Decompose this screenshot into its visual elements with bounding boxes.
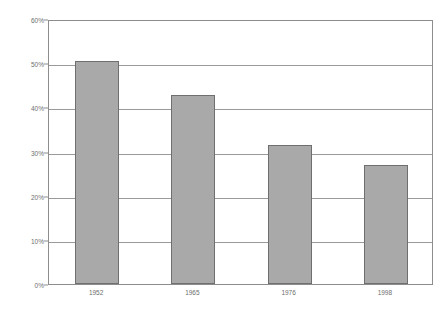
bar — [171, 95, 215, 284]
bar-chart: "그렇다"고 대답한 사람의 비율 0%10%20%30%40%50%60% 1… — [0, 0, 445, 318]
plot-area — [48, 20, 433, 285]
bar — [75, 61, 119, 284]
y-tick-label: 0% — [0, 282, 44, 289]
x-tick-label: 1965 — [185, 289, 199, 296]
x-tick-label: 1976 — [281, 289, 295, 296]
y-tick-label: 50% — [0, 61, 44, 68]
y-tick-label: 40% — [0, 105, 44, 112]
bar — [268, 145, 312, 284]
y-axis: 0%10%20%30%40%50%60% — [0, 20, 44, 285]
x-axis: 1952196519761998 — [48, 289, 433, 303]
y-tick-label: 30% — [0, 149, 44, 156]
y-tick-label: 60% — [0, 17, 44, 24]
y-tick-label: 20% — [0, 193, 44, 200]
x-tick-label: 1998 — [378, 289, 392, 296]
x-tick-label: 1952 — [89, 289, 103, 296]
y-tick-label: 10% — [0, 237, 44, 244]
bar — [364, 165, 408, 284]
